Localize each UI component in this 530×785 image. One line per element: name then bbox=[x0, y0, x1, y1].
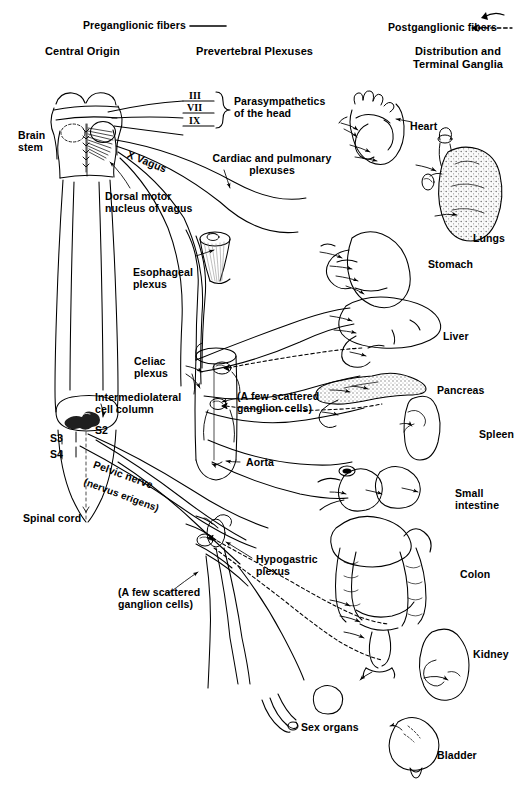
vagus-nerve-fibers bbox=[116, 140, 306, 386]
kidney-drawing bbox=[419, 629, 469, 700]
esophageal-plexus-label: Esophageal plexus bbox=[133, 266, 193, 291]
organ-label-kidney: Kidney bbox=[473, 648, 509, 660]
legend-postganglionic-label: Postganglionic fibers bbox=[388, 21, 497, 33]
celiac-plexus-drawing bbox=[186, 362, 240, 546]
column-header-distribution: Distribution and Terminal Ganglia bbox=[398, 45, 518, 71]
organ-label-pancreas: Pancreas bbox=[437, 384, 485, 396]
bladder-drawing bbox=[389, 717, 439, 778]
hypogastric-plexus-label: Hypogastric plexus bbox=[256, 553, 318, 578]
brain-stem-label: Brain stem bbox=[18, 129, 45, 154]
cranial-nerve-ix: IX bbox=[189, 115, 200, 127]
legend-preganglionic-label: Preganglionic fibers bbox=[83, 19, 186, 31]
brain-stem-drawing bbox=[51, 93, 122, 178]
cranial-nerve-fibers bbox=[108, 92, 230, 135]
organ-label-lungs: Lungs bbox=[473, 232, 505, 244]
cranial-nerve-iii: III bbox=[189, 90, 201, 102]
organ-label-colon: Colon bbox=[460, 568, 490, 580]
cranial-nerve-vii: VII bbox=[187, 102, 202, 114]
figure-canvas: Preganglionic fibers Postganglionic fibe… bbox=[0, 0, 530, 785]
esophagus-drawing bbox=[200, 232, 230, 284]
spinal-cord-label: Spinal cord bbox=[23, 512, 81, 524]
column-header-central-origin: Central Origin bbox=[45, 45, 120, 58]
pelvic-nerve-fibers bbox=[80, 434, 268, 564]
organ-label-liver: Liver bbox=[443, 330, 469, 342]
postganglionic-terminal-markers bbox=[208, 365, 229, 540]
organ-label-spleen: Spleen bbox=[479, 428, 514, 440]
spleen-drawing bbox=[400, 396, 440, 460]
heart-drawing bbox=[339, 91, 404, 165]
lungs-drawing bbox=[416, 128, 502, 241]
colon-drawing bbox=[330, 516, 431, 680]
segment-s2-label: S2 bbox=[95, 424, 108, 436]
segment-s4-label: S4 bbox=[50, 448, 63, 460]
scattered-ganglion-cells-lower-label: (A few scattered ganglion cells) bbox=[118, 586, 200, 611]
celiac-plexus-label: Celiac plexus bbox=[134, 355, 168, 380]
organ-label-heart: Heart bbox=[410, 120, 437, 132]
organ-label-stomach: Stomach bbox=[428, 258, 473, 270]
hypogastric-plexus-drawing bbox=[186, 515, 304, 688]
organ-label-bladder: Bladder bbox=[437, 749, 477, 761]
organ-label-small-intestine: Small intestine bbox=[455, 487, 499, 512]
dorsal-motor-nucleus-label: Dorsal motor nucleus of vagus bbox=[105, 190, 192, 215]
cardiac-pulmonary-plexuses-label: Cardiac and pulmonary plexuses bbox=[212, 152, 332, 177]
stomach-drawing bbox=[320, 232, 410, 308]
aorta-label: Aorta bbox=[246, 456, 274, 468]
small-intestine-drawing bbox=[318, 466, 420, 511]
segment-s3-label: S3 bbox=[50, 432, 63, 444]
scattered-ganglion-cells-upper-label: (A few scattered ganglion cells) bbox=[237, 390, 319, 415]
column-header-prevertebral-plexuses: Prevertebral Plexuses bbox=[196, 45, 313, 58]
organ-label-sex-organs: Sex organs bbox=[301, 721, 359, 733]
intermediolateral-cell-column-label: Intermediolateral cell column bbox=[95, 391, 181, 416]
parasympathetics-of-head-label: Parasympathetics of the head bbox=[234, 95, 325, 120]
